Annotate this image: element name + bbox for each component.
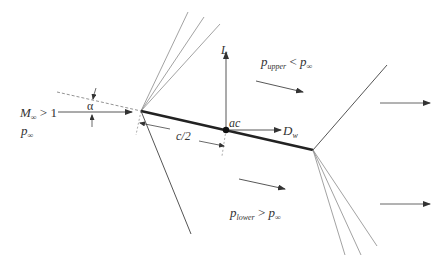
upper-flow-arrow	[256, 81, 303, 92]
mach-label: M∞ > 1	[20, 106, 57, 122]
alpha-arc-upper	[93, 88, 96, 99]
lower-flow-arrow	[239, 179, 285, 189]
upper-expansion-fan	[141, 12, 220, 111]
ac-reference-dashed	[222, 130, 226, 156]
freestream-pressure-label: p∞	[21, 124, 33, 140]
lower-expansion-fan	[313, 150, 377, 255]
ac-label: ac	[229, 117, 240, 129]
upper-trailing-shock	[313, 65, 387, 150]
chord-half-dim-left	[140, 123, 170, 129]
chord-half-label: c/2	[176, 130, 191, 142]
alpha-label: α	[87, 100, 93, 112]
wave-drag-label: Dw	[283, 124, 298, 140]
diagram-canvas	[0, 0, 448, 266]
chord-half-dim-right	[199, 141, 224, 146]
lower-pressure-label: plower > p∞	[230, 206, 281, 222]
freestream-dashed-line	[57, 92, 141, 111]
upper-pressure-label: pupper < p∞	[261, 55, 312, 71]
lift-label: L	[221, 44, 228, 56]
